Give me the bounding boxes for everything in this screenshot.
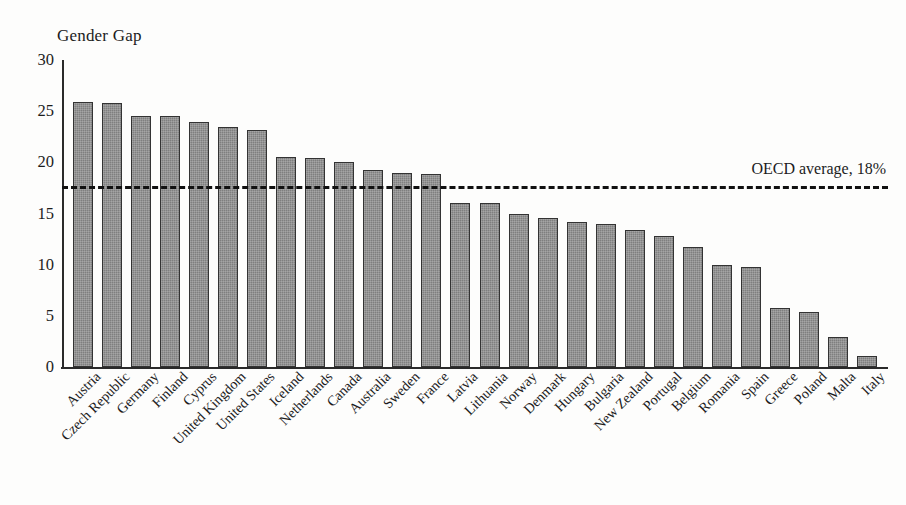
y-tick-label-10: 10 (14, 255, 54, 275)
bar-malta (828, 337, 848, 367)
bar-greece (770, 308, 790, 367)
chart-title: Gender Gap (57, 26, 142, 46)
bar-poland (799, 312, 819, 367)
y-tick-label-30: 30 (14, 50, 54, 70)
y-axis-line (62, 60, 64, 367)
bar-cyprus (189, 122, 209, 367)
y-tick-label-15: 15 (14, 204, 54, 224)
y-tick-label-0: 0 (14, 357, 54, 377)
x-axis-category-labels: AustriaCzech RepublicGermanyFinlandCypru… (62, 369, 892, 499)
y-tick-label-25: 25 (14, 101, 54, 121)
bar-italy (857, 356, 877, 367)
bar-spain (741, 267, 761, 367)
bar-norway (509, 214, 529, 368)
plot-area: 051015202530 OECD average, 18% (62, 60, 888, 367)
bar-czech-republic (102, 103, 122, 367)
bar-romania (712, 265, 732, 367)
bar-australia (363, 170, 383, 368)
bar-hungary (567, 222, 587, 367)
bar-portugal (654, 236, 674, 367)
oecd-average-line (62, 186, 888, 189)
bar-bulgaria (596, 224, 616, 367)
bar-belgium (683, 247, 703, 367)
bar-united-states (247, 130, 267, 367)
gender-gap-bar-chart-figure: Gender Gap 051015202530 OECD average, 18… (0, 0, 906, 505)
bar-latvia (450, 203, 470, 367)
bar-sweden (392, 173, 412, 367)
bar-germany (131, 116, 151, 367)
bar-netherlands (305, 158, 325, 367)
bar-canada (334, 162, 354, 367)
bar-denmark (538, 218, 558, 367)
y-tick-label-20: 20 (14, 152, 54, 172)
y-tick-label-5: 5 (14, 306, 54, 326)
bar-new-zealand (625, 230, 645, 367)
bar-finland (160, 116, 180, 367)
oecd-average-label: OECD average, 18% (751, 160, 886, 178)
bar-united-kingdom (218, 127, 238, 367)
bar-lithuania (480, 203, 500, 367)
bar-austria (73, 102, 93, 367)
bar-france (421, 174, 441, 367)
